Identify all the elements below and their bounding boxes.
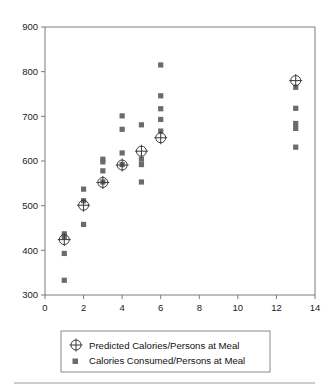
y-tick-label: 300 [22, 289, 38, 300]
chart-legend: Predicted Calories/Persons at Meal Calor… [61, 331, 270, 372]
data-point-square [139, 122, 144, 127]
data-point-square [81, 187, 86, 192]
y-tick-label: 400 [22, 245, 38, 256]
y-tick-label: 800 [22, 66, 38, 77]
data-point-circle-plus [96, 176, 109, 189]
data-point-square [100, 159, 105, 164]
data-point-square [62, 278, 67, 283]
y-axis-ticks: 300400500600700800900 [22, 21, 45, 300]
data-point-square [120, 113, 125, 118]
x-tick-label: 12 [271, 302, 282, 313]
data-point-square [139, 162, 144, 167]
x-tick-label: 2 [81, 302, 86, 313]
scatter-chart-figure: 300400500600700800900 02468101214 Predic… [0, 0, 329, 390]
square-marker-icon [73, 359, 79, 365]
data-point-square [120, 150, 125, 155]
data-point-square [100, 168, 105, 173]
x-tick-label: 0 [42, 302, 47, 313]
x-tick-label: 14 [310, 302, 321, 313]
x-axis-ticks: 02468101214 [42, 295, 320, 313]
chart-canvas: 300400500600700800900 02468101214 Predic… [0, 0, 329, 390]
plot-axes [45, 27, 315, 295]
x-tick-label: 8 [197, 302, 202, 313]
data-point-circle-plus [135, 145, 148, 158]
y-tick-label: 600 [22, 155, 38, 166]
data-point-square [293, 106, 298, 111]
data-point-circle-plus [77, 199, 90, 212]
data-point-square [120, 127, 125, 132]
data-point-square [293, 145, 298, 150]
x-tick-label: 10 [233, 302, 244, 313]
data-point-square [158, 93, 163, 98]
data-point-circle-plus [116, 159, 129, 172]
data-point-square [62, 251, 67, 256]
legend-item-predicted: Predicted Calories/Persons at Meal [70, 339, 240, 352]
data-point-square [158, 106, 163, 111]
data-point-square [139, 179, 144, 184]
series-predicted-calories [58, 74, 302, 246]
data-point-square [81, 222, 86, 227]
data-point-circle-plus [58, 233, 71, 246]
data-point-square [293, 121, 298, 126]
series-calories-consumed [62, 62, 299, 282]
y-tick-label: 700 [22, 111, 38, 122]
data-point-circle-plus [154, 131, 167, 144]
y-tick-label: 500 [22, 200, 38, 211]
data-point-square [158, 117, 163, 122]
legend-item-consumed: Calories Consumed/Persons at Meal [73, 355, 246, 366]
x-tick-label: 6 [158, 302, 163, 313]
data-point-square [293, 126, 298, 131]
data-point-circle-plus [289, 74, 302, 87]
x-tick-label: 4 [119, 302, 124, 313]
legend-label-consumed: Calories Consumed/Persons at Meal [89, 355, 245, 366]
data-point-square [158, 62, 163, 67]
legend-label-predicted: Predicted Calories/Persons at Meal [89, 340, 239, 351]
y-tick-label: 900 [22, 21, 38, 32]
